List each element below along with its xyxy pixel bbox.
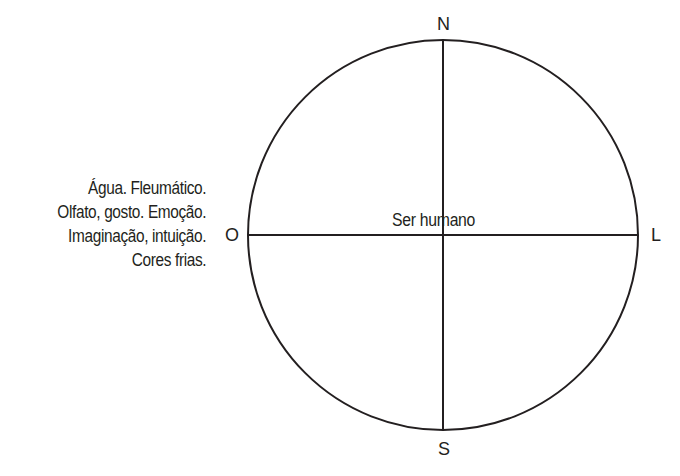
center-label: Ser humano (392, 211, 475, 229)
north-label: N (437, 15, 450, 33)
west-description-line: Cores frias. (57, 248, 206, 272)
west-description-line: Olfato, gosto. Emoção. (57, 200, 206, 224)
west-label: O (225, 226, 239, 244)
west-description: Água. Fleumático. Olfato, gosto. Emoção.… (57, 176, 206, 272)
west-description-line: Água. Fleumático. (57, 176, 206, 200)
east-label: L (651, 226, 661, 244)
west-description-line: Imaginação, intuição. (57, 224, 206, 248)
south-label: S (438, 440, 450, 458)
